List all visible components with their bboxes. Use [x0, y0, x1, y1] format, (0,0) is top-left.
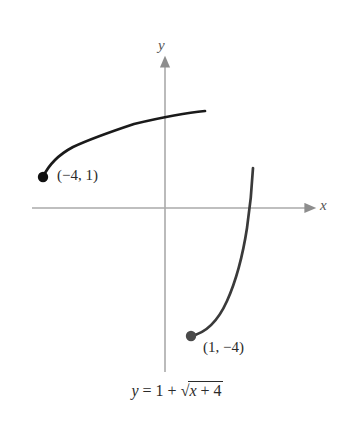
equation-constant: 1: [156, 382, 164, 399]
radicand-variable: x: [189, 382, 196, 399]
y-axis-label: y: [158, 38, 165, 53]
equation-radicand: x + 4: [188, 381, 222, 399]
equation-lhs: y: [131, 382, 138, 399]
point-label-1-minus4: (1, −4): [203, 340, 244, 355]
equation-caption: y = 1 + √x + 4: [0, 383, 354, 399]
radicand-plus: +: [201, 382, 210, 399]
curve-inverse-branch: [191, 168, 253, 336]
graph-canvas: [0, 0, 354, 433]
endpoint-dot-minus4-1: [38, 172, 48, 182]
point-label-minus4-1: (−4, 1): [57, 168, 98, 183]
x-axis-label: x: [320, 198, 327, 213]
endpoint-dot-1-minus4: [186, 331, 196, 341]
equation-plus: +: [168, 382, 177, 399]
radicand-constant: 4: [214, 382, 222, 399]
math-figure: y x (−4, 1) (1, −4) y = 1 + √x + 4: [0, 0, 354, 433]
equation-equals: =: [143, 382, 152, 399]
